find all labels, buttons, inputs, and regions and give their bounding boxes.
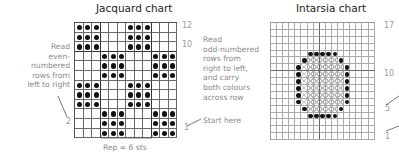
intarsia-pointer-5 — [386, 96, 399, 105]
left-note-pointer — [58, 96, 67, 117]
intarsia-pointer-1 — [386, 126, 399, 131]
leader-lines — [0, 0, 399, 160]
start-here-pointer — [187, 119, 201, 126]
